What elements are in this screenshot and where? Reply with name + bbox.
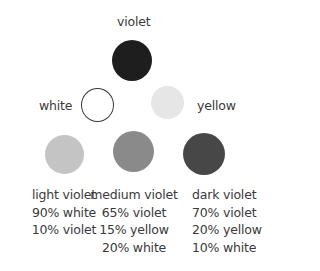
mix-name: medium violet [84,186,184,204]
swatch-violet [112,40,152,81]
mix-line: 20% yellow [192,221,262,239]
swatch-medium-violet [113,131,154,172]
swatch-light-violet [45,135,84,174]
mix-line: 15% yellow [84,221,184,239]
swatch-yellow [151,86,184,119]
label-yellow: yellow [197,98,236,113]
mix-medium-violet: medium violet 65% violet 15% yellow 20% … [84,186,184,256]
swatch-white [81,88,114,122]
mix-line: 70% violet [192,204,262,222]
mix-line: 20% white [84,239,184,257]
mix-line: 65% violet [84,204,184,222]
mix-name: dark violet [192,186,262,204]
label-white: white [39,98,72,113]
swatch-dark-violet [183,133,225,175]
label-violet: violet [117,14,150,29]
mix-line: 10% white [192,239,262,257]
mix-dark-violet: dark violet 70% violet 20% yellow 10% wh… [192,186,262,256]
